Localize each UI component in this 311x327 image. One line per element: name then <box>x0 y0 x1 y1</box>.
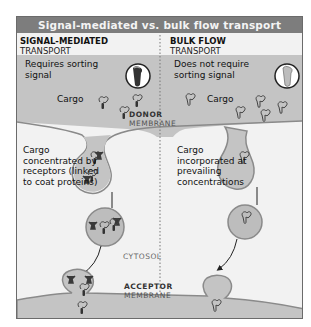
left-vesicle-label: Cargo concentrated by receptors (linked … <box>23 145 103 187</box>
left-cargo-label: Cargo <box>57 94 84 105</box>
donor-label-normal: MEMBRANE <box>129 120 176 129</box>
left-signal-label: Requires sorting signal <box>25 59 110 80</box>
right-cargo-label: Cargo <box>207 94 234 105</box>
diagram-frame: Signal-mediated vs. bulk flow transport <box>16 16 303 319</box>
acceptor-label-normal: MEMBRANE <box>124 292 173 301</box>
cytosol-label: CYTOSOL <box>123 252 162 261</box>
right-heading-normal: TRANSPORT <box>170 46 226 56</box>
left-panel-heading: SIGNAL-MEDIATED TRANSPORT <box>20 36 108 56</box>
right-signal-label: Does not require sorting signal <box>174 59 269 80</box>
no-sorting-signal-icon <box>275 64 299 88</box>
right-heading-bold: BULK FLOW <box>170 36 226 46</box>
right-vesicle-label: Cargo incorporated at prevailing concent… <box>177 145 257 187</box>
right-vesicle <box>228 205 262 239</box>
left-heading-normal: TRANSPORT <box>20 46 108 56</box>
acceptor-membrane-label: ACCEPTOR MEMBRANE <box>124 283 173 300</box>
left-heading-bold: SIGNAL-MEDIATED <box>20 36 108 46</box>
right-panel-heading: BULK FLOW TRANSPORT <box>170 36 226 56</box>
donor-membrane-label: DONOR MEMBRANE <box>129 111 176 128</box>
sorting-signal-icon <box>126 64 150 88</box>
